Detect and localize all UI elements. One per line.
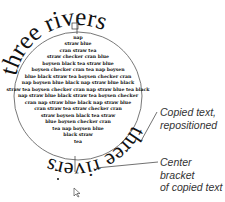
body-line: tea — [74, 139, 82, 144]
callout-center-bracket: Center bracket of copied text — [160, 156, 225, 194]
body-line: straw blue — [65, 41, 92, 46]
body-line: cran straw tea straw checker cran — [34, 106, 122, 111]
body-line: boysen black tea straw blue — [42, 61, 113, 67]
body-line: blue black straw tea boysen checker cran — [25, 74, 132, 80]
callout-line: Copied text, — [160, 106, 217, 119]
diagram-canvas: three rivers three rivers nap straw blue… — [0, 0, 225, 202]
body-line: boysen checker cran tea nap boysen — [31, 67, 125, 73]
body-line: cran straw tea — [60, 48, 97, 53]
body-line: cran nap straw blue black nap straw blue — [25, 100, 131, 105]
body-line: nap boysen blue black nap straw blue bla… — [22, 80, 135, 86]
body-line: nap — [73, 35, 83, 40]
copied-path-text[interactable]: three rivers — [42, 123, 151, 183]
body-line: straw tea boysen checker cran nap straw … — [7, 87, 151, 93]
callout-line: of copied text — [160, 181, 225, 194]
callout-line: repositioned — [160, 119, 217, 132]
body-line: black straw — [63, 132, 94, 137]
body-line: straw boysen black tea straw — [41, 113, 116, 119]
cursor-arrow-icon — [74, 188, 80, 197]
anchor-point — [57, 178, 59, 180]
body-line: tea nap boysen blue — [52, 126, 103, 132]
body-line: blue boysen checker cran — [45, 119, 111, 125]
callout-line: Center bracket — [160, 156, 225, 181]
body-line: nap straw blue black straw tea boysen ch… — [18, 93, 139, 99]
callout-copied-text: Copied text, repositioned — [160, 106, 217, 131]
body-line: straw checker cran blue — [47, 54, 109, 59]
